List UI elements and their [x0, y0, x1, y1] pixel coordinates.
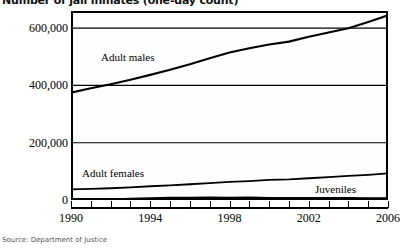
y-axis-tick-label: 200,000 [29, 137, 68, 149]
x-axis-tick-label: 1990 [59, 211, 83, 226]
x-axis-tick-mark [71, 201, 72, 208]
x-axis-tick-label: 1998 [218, 211, 242, 226]
series-line [71, 197, 388, 199]
x-axis-tick-mark [309, 201, 310, 208]
x-axis-tick-mark [368, 201, 369, 208]
y-axis-tick-label: 600,000 [29, 22, 68, 34]
x-axis-tick-mark [249, 201, 250, 208]
y-axis-tick-label: 400,000 [29, 79, 68, 91]
x-axis-tick-mark [150, 201, 151, 208]
x-axis-tick-mark [230, 201, 231, 208]
source-note: Source: Department of Justice [2, 236, 107, 244]
x-axis-tick-mark [190, 201, 191, 208]
x-axis-tick-mark [91, 201, 92, 208]
x-axis-tick-mark [348, 201, 349, 208]
x-axis-tick-mark [388, 201, 389, 208]
x-axis-tick-label: 1994 [138, 211, 162, 226]
x-axis-tick-mark [289, 201, 290, 208]
x-axis-tick-mark [111, 201, 112, 208]
y-axis-tick-label: 0 [62, 194, 68, 206]
x-axis-tick-mark [130, 201, 131, 208]
page-title: Number of jail inmates (one-day count) [2, 0, 238, 7]
x-axis-tick-mark [269, 201, 270, 208]
x-axis-tick-label: 2006 [376, 211, 400, 226]
series-label-adult-males: Adult males [101, 51, 154, 63]
series-label-adult-females: Adult females [82, 167, 144, 179]
x-axis-tick-label: 2002 [297, 211, 321, 226]
x-axis-tick-mark [170, 201, 171, 208]
x-axis-tick-mark [329, 201, 330, 208]
chart-container: Number of jail inmates (one-day count) 0… [0, 0, 405, 249]
x-axis-tick-mark [210, 201, 211, 208]
series-label-juveniles: Juveniles [315, 183, 356, 195]
